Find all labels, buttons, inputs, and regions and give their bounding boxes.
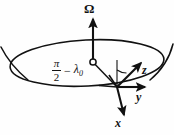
colatitude-angle-label: π 2 − λ0 [52, 58, 83, 83]
lambda-subscript: 0 [79, 69, 83, 78]
x-axis-arrow [117, 87, 124, 115]
angle-arc [117, 70, 127, 73]
lambda-term: λ0 [74, 63, 83, 78]
sphere-arc-right [150, 44, 173, 80]
fraction-denominator: 2 [53, 71, 61, 83]
y-axis-label: y [136, 91, 141, 103]
center-marker-icon [90, 59, 96, 65]
fraction-numerator: π [53, 58, 61, 70]
radius-line [95, 64, 117, 87]
frame-tail-left [99, 86, 117, 88]
minus-operator: − [63, 65, 72, 77]
omega-label: Ω [84, 2, 94, 15]
z-axis-arrow [117, 63, 141, 87]
pi-over-two-fraction: π 2 [52, 58, 61, 83]
z-axis-label: z [142, 64, 147, 76]
figure-canvas [0, 0, 174, 135]
physics-figure: Ω z y x π 2 − λ0 [0, 0, 174, 135]
x-axis-label: x [115, 117, 121, 129]
